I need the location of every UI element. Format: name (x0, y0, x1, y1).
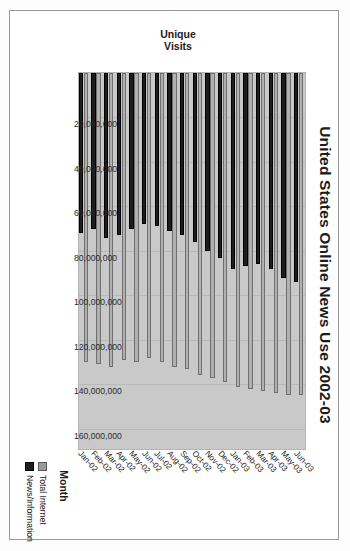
legend-swatch-icon (26, 462, 35, 471)
bar-news-information (129, 73, 133, 229)
bar-news-information (193, 73, 197, 242)
bar-total-internet (223, 73, 227, 382)
bar-total-internet (236, 73, 240, 387)
gridline (79, 429, 305, 430)
value-tick-label: 80,000,000 (74, 253, 117, 263)
bar-news-information (294, 73, 298, 282)
bar-total-internet (109, 73, 113, 367)
bar-news-information (205, 73, 209, 251)
category-axis: Jan-02Feb-02Mar-02Apr-02May-02Jun-02Jul-… (78, 450, 306, 524)
value-tick-label: 160,000,000 (74, 431, 122, 441)
chart-title: United States Online News Use 2002-03 (316, 10, 334, 540)
value-tick-label: 20,000,000 (74, 119, 117, 129)
value-axis: 160,000,000140,000,000120,000,000100,000… (20, 72, 76, 450)
bar-news-information (167, 73, 171, 231)
bar-chart: United States Online News Use 2002-03 16… (10, 10, 340, 540)
bar-news-information (231, 73, 235, 269)
category-axis-title: Month (58, 456, 70, 516)
chart-legend: Total InternetNews/Information (22, 462, 48, 538)
bar-news-information (180, 73, 184, 235)
bar-news-information (269, 73, 273, 269)
value-tick-label: 140,000,000 (74, 386, 122, 396)
bar-news-information (218, 73, 222, 258)
bar-total-internet (198, 73, 202, 375)
chart-rotation-wrapper: United States Online News Use 2002-03 16… (0, 0, 350, 551)
bar-total-internet (248, 73, 252, 389)
bar-total-internet (147, 73, 151, 358)
legend-label: Total Internet (38, 475, 48, 525)
bar-total-internet (172, 73, 176, 367)
bar-total-internet (210, 73, 214, 378)
bar-news-information (142, 73, 146, 224)
bar-total-internet (122, 73, 126, 360)
scanned-page: United States Online News Use 2002-03 16… (0, 0, 350, 551)
value-tick-label: 120,000,000 (74, 342, 122, 352)
bar-total-internet (96, 73, 100, 364)
value-tick-label: 60,000,000 (74, 208, 117, 218)
legend-item: Total Internet (38, 462, 48, 538)
bar-total-internet (299, 73, 303, 395)
value-axis-title: Unique Visits (148, 28, 208, 52)
value-tick-label: 100,000,000 (74, 297, 122, 307)
bar-total-internet (274, 73, 278, 393)
bar-news-information (155, 73, 159, 226)
bar-news-information (117, 73, 121, 235)
value-tick-label: 40,000,000 (74, 164, 117, 174)
legend-swatch-icon (39, 462, 48, 471)
bar-total-internet (261, 73, 265, 391)
bar-news-information (256, 73, 260, 264)
bar-news-information (91, 73, 95, 229)
bar-total-internet (286, 73, 290, 395)
bar-total-internet (134, 73, 138, 362)
bar-total-internet (160, 73, 164, 362)
bar-total-internet (185, 73, 189, 369)
bar-news-information (243, 73, 247, 266)
bar-news-information (281, 73, 285, 278)
legend-item: News/Information (25, 462, 35, 538)
legend-label: News/Information (25, 475, 35, 542)
